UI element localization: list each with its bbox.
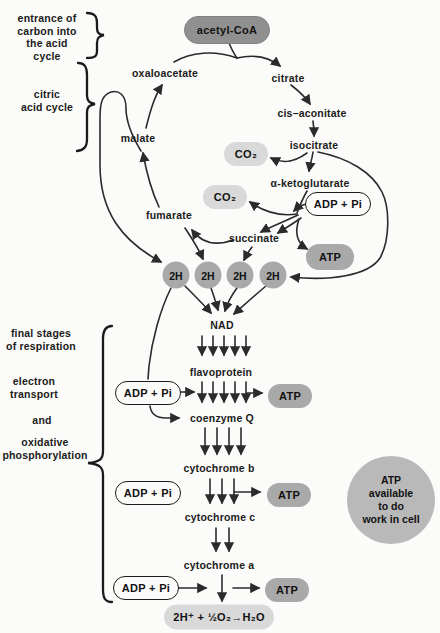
co2-pill-1: CO₂ bbox=[224, 142, 268, 166]
cytochrome-c-label: cytochrome c bbox=[185, 511, 256, 524]
2h-circle-3: 2H bbox=[227, 262, 254, 289]
cis-aconitate-label: cis–aconitate bbox=[277, 107, 346, 120]
electron-transport-label: electron transport bbox=[10, 375, 58, 400]
atp-pill-4: ATP bbox=[265, 578, 309, 602]
2h-circle-1: 2H bbox=[163, 262, 190, 289]
2h-circle-2: 2H bbox=[195, 262, 222, 289]
and-label: and bbox=[32, 414, 51, 427]
adp-pi-pill-3: ADP + Pi bbox=[115, 481, 181, 505]
co2-pill-2: CO₂ bbox=[203, 185, 247, 209]
final-stages-bracket bbox=[88, 326, 112, 602]
citric-bracket bbox=[77, 63, 95, 151]
2h-circle-4: 2H bbox=[260, 262, 287, 289]
entrance-label: entrance of carbon into the acid cycle bbox=[17, 12, 76, 62]
citrate-label: citrate bbox=[272, 72, 305, 85]
citric-acid-cycle-label: citric acid cycle bbox=[21, 88, 73, 113]
alpha-ketoglutarate-label: α-ketoglutarate bbox=[271, 177, 350, 190]
succinate-label: succinate bbox=[229, 232, 279, 245]
flavoprotein-label: flavoprotein bbox=[190, 366, 253, 379]
atp-pill-3: ATP bbox=[267, 483, 311, 507]
coenzyme-q-label: coenzyme Q bbox=[190, 412, 254, 425]
atp-available-circle: ATP available to do work in cell bbox=[347, 456, 435, 544]
adp-pi-pill-4: ADP + Pi bbox=[113, 576, 179, 600]
adp-pi-pill-cycle: ADP + Pi bbox=[305, 192, 371, 216]
cytochrome-b-label: cytochrome b bbox=[183, 462, 254, 475]
adp-pi-pill-2: ADP + Pi bbox=[115, 381, 181, 405]
fumarate-label: fumarate bbox=[146, 209, 192, 222]
malate-label: malate bbox=[121, 132, 155, 145]
cytochrome-a-label: cytochrome a bbox=[184, 559, 255, 572]
atp-pill-2: ATP bbox=[268, 384, 312, 408]
oxidative-phosphorylation-label: oxidative phosphorylation bbox=[2, 436, 87, 461]
metabolism-diagram: entrance of carbon into the acid cycle c… bbox=[0, 0, 440, 633]
nad-label: NAD bbox=[210, 319, 233, 332]
isocitrate-label: isocitrate bbox=[290, 139, 339, 152]
oxaloacetate-label: oxaloacetate bbox=[132, 67, 198, 80]
chain-arrows bbox=[148, 288, 262, 601]
atp-pill-cycle: ATP bbox=[306, 244, 354, 270]
brackets bbox=[77, 13, 112, 602]
final-stages-label: final stages of respiration bbox=[6, 327, 76, 352]
entrance-bracket bbox=[87, 13, 104, 58]
water-reaction-pill: 2H⁺ + ½O₂→H₂O bbox=[164, 605, 274, 630]
acetyl-coa-pill: acetyl-CoA bbox=[184, 16, 270, 44]
